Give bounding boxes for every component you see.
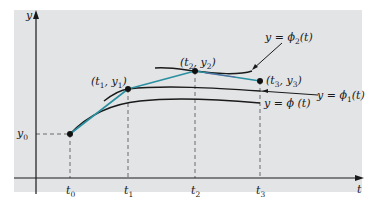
point-t0-y0 (67, 131, 73, 137)
point-t3-y3 (257, 78, 263, 84)
curve-label-phi2: y = ϕ2(t) (264, 31, 313, 46)
y-axis-label: y (25, 9, 33, 22)
euler-method-diagram: y t y0 t0 t1 t2 t3 (t1, y1) (t2, y2) (t3… (0, 0, 375, 214)
t-axis-label: t (357, 183, 362, 196)
curve-label-phi: y = ϕ (t) (263, 97, 310, 110)
curve-label-phi1: y = ϕ1(t) (316, 89, 365, 104)
